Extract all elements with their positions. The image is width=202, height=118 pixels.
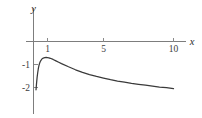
plot-canvas: 1 5 10 -1 -2 x y	[0, 0, 202, 118]
data-curve	[36, 57, 173, 89]
x-tick-label-10: 10	[169, 44, 179, 54]
x-tick-label-1: 1	[45, 44, 50, 54]
y-tick-label-minus2: -2	[22, 83, 30, 93]
x-tick-label-5: 5	[101, 44, 106, 54]
y-axis-label: y	[30, 3, 36, 14]
axes-group	[26, 8, 186, 114]
plot-figure: 1 5 10 -1 -2 x y	[0, 0, 202, 118]
x-axis-label: x	[189, 36, 195, 47]
y-tick-label-minus1: -1	[22, 60, 30, 70]
